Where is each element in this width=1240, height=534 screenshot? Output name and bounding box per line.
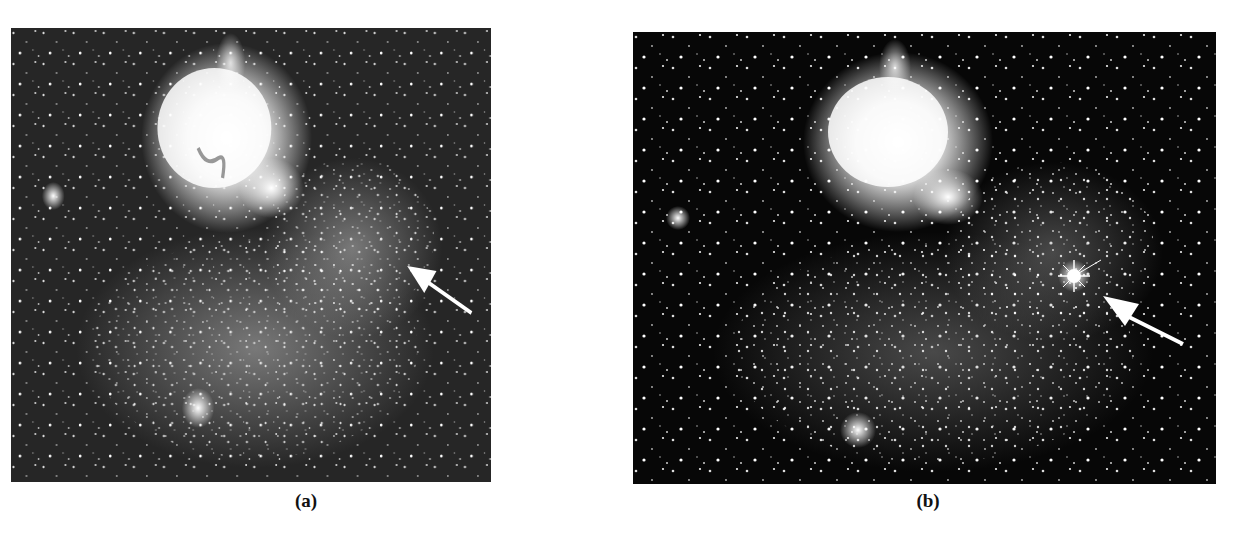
photo-panel-a	[11, 28, 491, 482]
star-field-image-a	[11, 28, 491, 482]
star-field-image-b	[633, 32, 1216, 484]
panel-label-a: (a)	[276, 490, 336, 512]
photo-panel-b	[633, 32, 1216, 484]
panel-label-b: (b)	[898, 490, 958, 512]
